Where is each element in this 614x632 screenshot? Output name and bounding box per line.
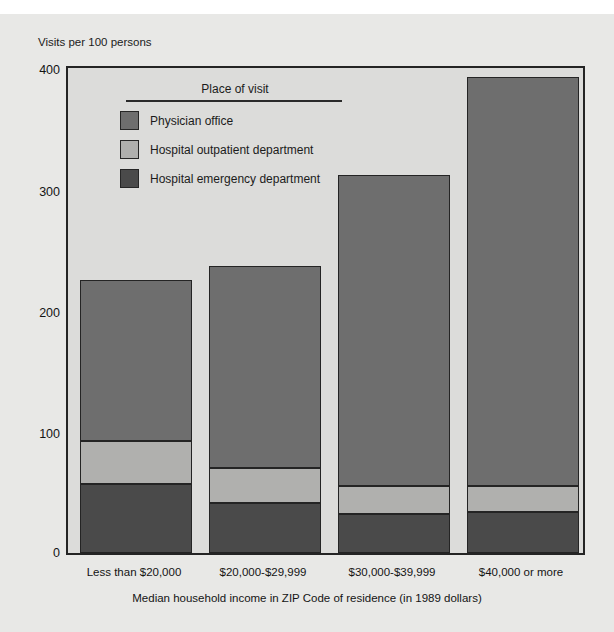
- y-axis-tick-300: 300: [24, 185, 60, 199]
- bar-2: [209, 266, 321, 553]
- legend-swatch-icon: [120, 111, 139, 130]
- plot-inner: Place of visit Physician officeHospital …: [68, 68, 583, 553]
- bar-segment: [80, 280, 192, 441]
- bar-segment: [338, 514, 450, 553]
- legend-entry-label: Hospital outpatient department: [150, 143, 313, 157]
- legend-entry-label: Physician office: [150, 114, 233, 128]
- bar-segment: [338, 175, 450, 487]
- bar-segment: [80, 441, 192, 483]
- bar-segment: [467, 77, 579, 487]
- chart-legend: Place of visit Physician officeHospital …: [120, 82, 390, 198]
- legend-divider: [126, 100, 342, 102]
- legend-entry: Physician office: [120, 111, 390, 130]
- chart-figure: Visits per 100 persons 400 300 200 100 0…: [0, 14, 614, 632]
- y-axis-tick-200: 200: [24, 306, 60, 320]
- y-axis-tick-400: 400: [24, 63, 60, 77]
- bar-segment: [467, 512, 579, 553]
- bar-segment: [80, 484, 192, 553]
- legend-title: Place of visit: [126, 82, 344, 96]
- legend-entry-label: Hospital emergency department: [150, 172, 320, 186]
- bar-1: [80, 280, 192, 553]
- bar-3: [338, 175, 450, 553]
- legend-swatch-icon: [120, 169, 139, 188]
- y-axis-tick-0: 0: [24, 546, 60, 560]
- legend-swatch-icon: [120, 140, 139, 159]
- bar-4: [467, 77, 579, 554]
- bar-segment: [338, 486, 450, 514]
- bar-segment: [209, 266, 321, 468]
- legend-entries: Physician officeHospital outpatient depa…: [120, 111, 390, 188]
- x-axis-title: Median household income in ZIP Code of r…: [0, 592, 614, 604]
- x-axis-tick-4: $40,000 or more: [441, 566, 601, 578]
- bar-segment: [209, 468, 321, 503]
- bar-segment: [209, 503, 321, 553]
- bar-segment: [467, 486, 579, 511]
- y-axis-title: Visits per 100 persons: [38, 36, 152, 48]
- legend-entry: Hospital emergency department: [120, 169, 390, 188]
- plot-area: Place of visit Physician officeHospital …: [66, 66, 585, 555]
- legend-entry: Hospital outpatient department: [120, 140, 390, 159]
- y-axis-tick-100: 100: [24, 427, 60, 441]
